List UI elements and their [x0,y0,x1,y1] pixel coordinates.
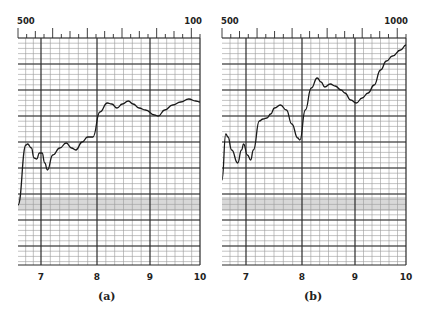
response-curve [222,45,406,180]
chart-canvas: 50010078910 500100078910 [0,0,426,318]
x-tick-label: 9 [352,272,358,282]
x-tick-label: 7 [243,272,249,282]
caption-b: (b) [304,290,322,303]
top-right-label: 100 [184,16,202,26]
x-tick-label: 9 [147,272,153,282]
figure: 50010078910 500100078910 (a) (b) [0,0,426,318]
x-tick-label: 8 [94,272,100,282]
top-left-label: 500 [17,16,35,26]
top-left-label: 500 [221,16,239,26]
top-right-label: 1000 [384,16,408,26]
x-tick-label: 7 [38,272,44,282]
x-tick-label: 10 [400,272,413,282]
panel-a: 50010078910 [17,16,206,282]
x-tick-label: 8 [299,272,305,282]
caption-a: (a) [98,290,116,303]
panel-b: 500100078910 [221,16,412,282]
x-tick-label: 10 [194,272,207,282]
